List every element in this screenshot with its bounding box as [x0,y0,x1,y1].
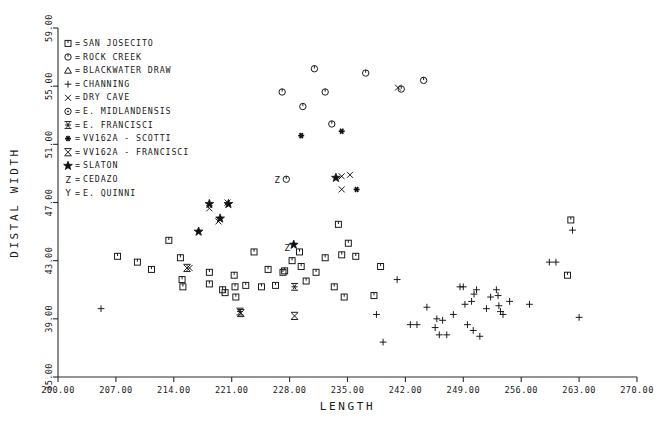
asterisk-bold-icon [300,134,303,137]
y-tick-label: 43.00 [44,247,54,275]
x-tick-label: 228.00 [273,385,306,395]
legend-label: CEDAZO [83,174,118,184]
asterisk-bold-icon [67,137,70,140]
legend-item: =VV162A - FRANCISCI [64,147,189,157]
legend-equals: = [75,52,81,62]
legend-label: CHANNING [83,79,130,89]
y-tick-label: 51.00 [44,130,54,158]
legend-symbol-letter-Y: Y [65,187,71,198]
legend-equals: = [75,133,81,143]
scatter-plot-figure: 200.00207.00214.00221.00228.00235.00242.… [0,0,661,421]
legend-label: E. FRANCISCI [83,120,154,130]
data-point: Z [284,242,290,253]
y-tick-label: 47.00 [44,189,54,217]
dot-icon [67,111,69,113]
legend-item: =BLACKWATER DRAW [65,65,172,75]
legend-equals: = [75,79,81,89]
letter-z-icon: Z [284,242,290,253]
x-tick-label: 263.00 [562,385,595,395]
legend-equals: = [75,65,81,75]
y-tick-label: 39.00 [44,305,54,333]
legend-label: BLACKWATER DRAW [83,65,171,75]
x-tick-label: 249.00 [447,385,480,395]
legend-equals: = [75,174,81,184]
legend-label: SAN JOSECITO [83,38,154,48]
legend-equals: = [75,160,81,170]
figure-background [0,0,661,421]
plot-svg: 200.00207.00214.00221.00228.00235.00242.… [0,0,661,421]
legend-equals: = [75,188,81,198]
legend-label: E. MIDLANDENSIS [83,106,171,116]
y-tick-label: 59.00 [44,14,54,42]
legend-item: =ROCK CREEK [65,52,142,62]
legend-symbol-letter-Z: Z [65,174,71,185]
legend-label: ROCK CREEK [83,52,142,62]
legend-item: =SAN JOSECITO [65,38,154,48]
x-tick-label: 256.00 [504,385,537,395]
legend-equals: = [75,106,81,116]
legend-item: =DRY CAVE [65,92,130,102]
letter-z-icon: Z [274,174,280,185]
legend-label: VV162A - SCOTTI [83,133,171,143]
legend-label: DRY CAVE [83,92,130,102]
x-tick-label: 207.00 [99,385,132,395]
legend-equals: = [75,120,81,130]
y-tick-label: 35.00 [44,363,54,391]
legend-label: E. QUINNI [83,188,136,198]
x-tick-label: 235.00 [331,385,364,395]
data-point: Z [274,174,280,185]
x-tick-label: 242.00 [389,385,422,395]
x-axis-title: LENGTH [320,400,375,413]
y-tick-label: 55.00 [44,72,54,100]
letter-y-icon: Y [65,187,71,198]
asterisk-bold-icon [340,130,343,133]
x-tick-label: 270.00 [620,385,653,395]
x-tick-label: 221.00 [215,385,248,395]
x-tick-label: 214.00 [157,385,190,395]
legend-item: =CHANNING [65,79,131,89]
legend-equals: = [75,92,81,102]
legend-item: Y=E. QUINNI [65,187,136,198]
legend-label: SLATON [83,160,118,170]
asterisk-bold-icon [355,188,358,191]
legend-equals: = [75,38,81,48]
letter-z-icon: Z [65,174,71,185]
legend-label: VV162A - FRANCISCI [83,147,189,157]
y-axis-title: DISTAL WIDTH [8,147,21,258]
legend-item: =E. FRANCISCI [65,120,154,130]
legend-equals: = [75,147,81,157]
legend-item: =E. MIDLANDENSIS [65,106,172,116]
